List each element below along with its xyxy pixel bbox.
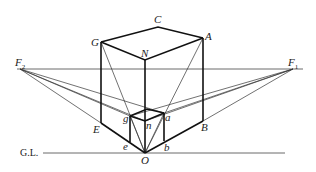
- rays-from-f1: [130, 69, 293, 121]
- label-b-upper: B: [201, 121, 208, 133]
- label-c: C: [154, 13, 162, 25]
- large-prism: [101, 27, 203, 153]
- construction-lines: [101, 38, 203, 153]
- label-n-lower: n: [146, 119, 152, 131]
- rays-from-f2: [20, 69, 164, 123]
- label-n: N: [140, 47, 149, 59]
- label-a-lower: a: [165, 111, 171, 123]
- perspective-diagram: F2 F1 C G A N E B O g n a e b G.L.: [0, 0, 316, 172]
- label-g: G: [91, 36, 99, 48]
- label-e-lower: e: [123, 140, 128, 152]
- label-g-lower: g: [123, 112, 129, 124]
- label-o: O: [141, 154, 149, 166]
- label-ground-line: G.L.: [20, 147, 38, 158]
- label-a: A: [204, 30, 212, 42]
- label-e-upper: E: [92, 123, 100, 135]
- label-b-lower: b: [164, 141, 170, 153]
